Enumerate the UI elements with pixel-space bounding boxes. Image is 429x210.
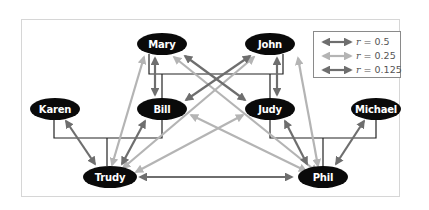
legend-label: r = 0.25	[356, 50, 396, 61]
legend-item-r-0-5	[320, 36, 354, 48]
node-mary: Mary	[137, 33, 187, 55]
arrow-bill-phil	[191, 115, 306, 171]
node-john: John	[245, 33, 295, 55]
node-bill: Bill	[137, 98, 187, 120]
legend-label: r = 0.5	[356, 36, 390, 47]
node-michael: Michael	[351, 98, 401, 120]
double-arrow-icon	[320, 37, 354, 47]
legend: r = 0.5 r = 0.25 r = 0.125	[313, 31, 401, 78]
double-arrow-icon	[320, 51, 354, 61]
arrow-michael-phil	[336, 121, 364, 164]
legend-label: r = 0.125	[356, 64, 402, 75]
legend-item-r-0-125	[320, 64, 354, 76]
arrow-judy-phil	[285, 121, 307, 164]
node-trudy: Trudy	[83, 166, 137, 188]
node-judy: Judy	[245, 98, 295, 120]
node-label: Michael	[355, 104, 397, 115]
node-karen: Karen	[30, 98, 80, 120]
node-label: Judy	[258, 104, 282, 115]
node-label: Phil	[313, 172, 334, 183]
node-label: John	[258, 39, 282, 50]
node-label: Mary	[148, 39, 175, 50]
legend-item-r-0-25	[320, 50, 354, 62]
node-phil: Phil	[298, 166, 348, 188]
node-label: Karen	[39, 104, 71, 115]
arrow-karen-trudy	[66, 121, 95, 164]
family-line-mary-john	[149, 54, 283, 74]
arrow-bill-trudy	[122, 121, 145, 164]
double-arrow-icon	[320, 65, 354, 75]
node-label: Trudy	[95, 172, 125, 183]
node-label: Bill	[153, 104, 170, 115]
